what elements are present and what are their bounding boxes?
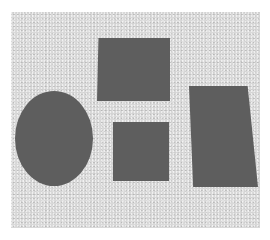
bottom-square-shape [113, 122, 169, 181]
top-square-shape [97, 38, 170, 101]
ellipse-shape [15, 91, 93, 186]
right-trapezoid-shape [189, 86, 258, 187]
